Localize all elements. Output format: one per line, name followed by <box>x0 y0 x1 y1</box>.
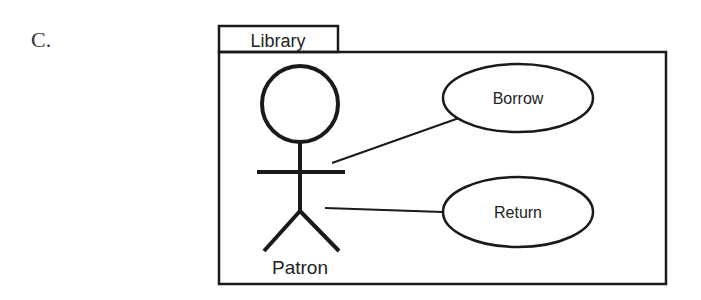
actor-patron <box>257 66 345 251</box>
actor-name: Patron <box>272 257 328 278</box>
diagram-canvas: C. Library Patron Borrow Return <box>0 0 701 300</box>
use-case-return-label: Return <box>494 204 542 221</box>
association-borrow <box>332 118 459 163</box>
actor-left-leg <box>264 211 300 251</box>
use-case-borrow: Borrow <box>443 64 593 132</box>
use-case-borrow-label: Borrow <box>493 90 544 107</box>
system-tab: Library <box>219 26 338 52</box>
association-return <box>325 208 443 212</box>
system-name: Library <box>250 31 305 51</box>
use-case-diagram: Library Patron Borrow Return <box>0 0 701 300</box>
actor-right-leg <box>300 211 339 251</box>
system-boundary <box>219 52 666 284</box>
use-case-return: Return <box>443 177 593 247</box>
actor-head <box>262 66 338 142</box>
